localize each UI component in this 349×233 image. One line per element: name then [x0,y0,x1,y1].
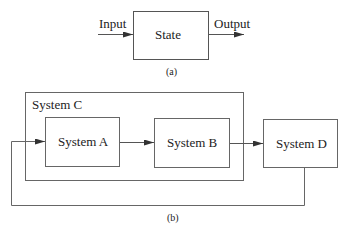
feedback-line [12,142,305,206]
system-b-label: System B [167,136,217,149]
caption-a: (a) [166,67,177,77]
system-c-label: System C [32,98,82,111]
input-label: Input [99,17,126,30]
output-label: Output [214,17,250,30]
system-a-label: System A [58,135,108,148]
system-d-label: System D [276,137,327,150]
state-label: State [155,28,181,41]
caption-b: (b) [167,213,179,223]
